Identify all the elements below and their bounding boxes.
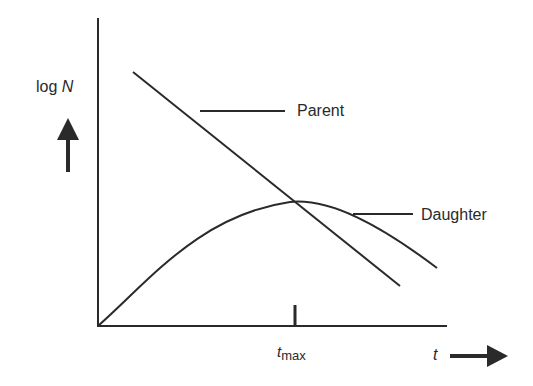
parent-label: Parent bbox=[297, 102, 344, 120]
tmax-sub: max bbox=[281, 348, 306, 363]
daughter-curve bbox=[98, 202, 437, 326]
x-arrow-head-icon bbox=[487, 345, 508, 367]
daughter-label: Daughter bbox=[421, 206, 487, 224]
tmax-label: tmax bbox=[277, 343, 306, 360]
y-axis-log: log bbox=[36, 78, 62, 95]
decay-chart bbox=[0, 0, 533, 386]
x-axis-label: t bbox=[433, 346, 437, 364]
y-axis-label: log N bbox=[36, 78, 73, 96]
y-axis-var: N bbox=[62, 78, 74, 95]
parent-curve bbox=[133, 72, 400, 286]
y-arrow-head-icon bbox=[57, 118, 79, 140]
